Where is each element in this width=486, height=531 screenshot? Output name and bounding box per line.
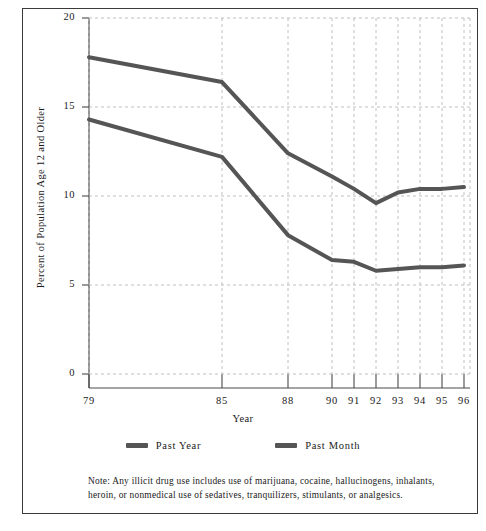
legend-label-past-month: Past Month [305, 440, 360, 451]
chart-note: Note: Any illicit drug use includes use … [88, 475, 444, 503]
y-tick-label-5: 5 [45, 278, 75, 289]
x-tick-label-85: 85 [202, 395, 242, 406]
legend-swatch-icon-past-month [275, 443, 297, 448]
y-axis-title: Percent of Population Age 12 and Older [35, 48, 46, 348]
y-tick-label-15: 15 [45, 100, 75, 111]
y-tick-label-20: 20 [45, 11, 75, 22]
legend-entry-past-month: Past Month [275, 440, 360, 451]
chart-legend: Past Year Past Month [0, 440, 486, 451]
x-tick-marks [89, 374, 464, 388]
horizontal-gridlines [89, 18, 470, 374]
x-tick-label-96: 96 [444, 395, 484, 406]
legend-entry-past-year: Past Year [126, 440, 201, 451]
x-tick-label-79: 79 [69, 395, 109, 406]
legend-swatch-icon-past-year [126, 443, 148, 448]
y-tick-label-10: 10 [45, 189, 75, 200]
series-line-past-year [89, 57, 464, 203]
chart-area: 20 15 10 5 0 79 85 88 90 91 92 93 94 95 … [0, 0, 486, 531]
legend-label-past-year: Past Year [156, 440, 201, 451]
plot-svg [0, 0, 486, 531]
x-axis-title: Year [0, 413, 486, 424]
y-tick-marks [82, 18, 89, 374]
vertical-gridlines [89, 18, 470, 374]
x-tick-label-88: 88 [268, 395, 308, 406]
y-tick-label-0: 0 [45, 367, 75, 378]
